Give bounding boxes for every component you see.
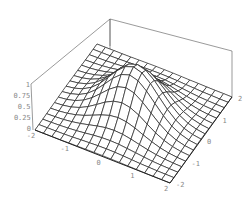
x-tick-label: 0 — [96, 159, 100, 167]
y-tick-label: 2 — [238, 95, 242, 103]
x-tick-label: 1 — [130, 172, 134, 180]
z-axis-ticks: 00.250.50.751 — [13, 81, 31, 133]
y-tick-label: 1 — [223, 117, 227, 125]
z-tick-label: 1 — [26, 81, 30, 89]
y-tick-label: -1 — [192, 160, 200, 168]
z-tick-label: 0.25 — [14, 114, 31, 122]
y-tick-label: 0 — [207, 138, 211, 146]
surface-plot: 00.250.50.751 -2-1012 -2-1012 — [0, 0, 249, 198]
surface-mesh — [35, 44, 232, 183]
box-left-vertical-edge — [31, 84, 33, 130]
x-tick-label: -2 — [27, 132, 35, 140]
x-tick-label: 2 — [164, 185, 168, 193]
x-tick-label: -1 — [61, 145, 69, 153]
z-tick-label: 0.5 — [18, 103, 31, 111]
z-tick-label: 0.75 — [13, 92, 30, 100]
y-tick-label: -2 — [176, 181, 184, 189]
